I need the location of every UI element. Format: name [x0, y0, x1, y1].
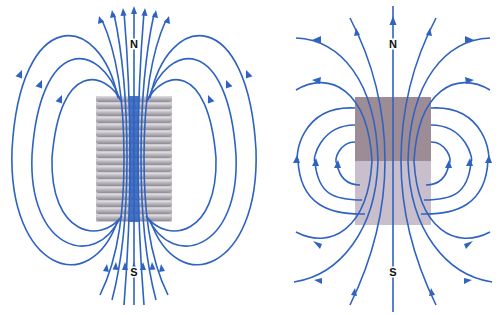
solenoid-south-label: S — [129, 267, 138, 278]
solenoid-north-label: N — [129, 39, 139, 50]
bar-magnet-south-label: S — [388, 267, 397, 278]
magnetic-field-diagram — [0, 0, 501, 315]
bar-magnet-north-label: N — [388, 39, 398, 50]
solenoid-panel — [12, 6, 256, 305]
